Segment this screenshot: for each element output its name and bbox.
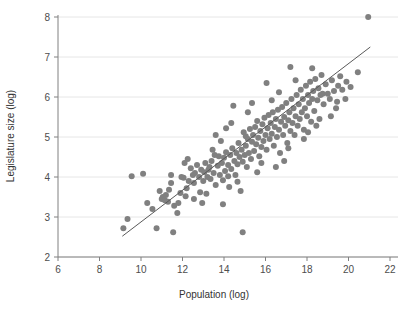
data-point: [234, 179, 240, 185]
data-point: [238, 188, 244, 194]
x-axis: 6810121416182022: [55, 257, 398, 275]
data-point: [269, 131, 275, 137]
data-point: [258, 144, 264, 150]
data-point: [154, 225, 160, 231]
data-point: [120, 225, 126, 231]
data-point: [339, 87, 345, 93]
data-point: [302, 105, 308, 111]
data-point: [289, 120, 295, 126]
data-point: [226, 184, 232, 190]
data-point: [194, 162, 200, 168]
x-tick-label: 10: [135, 264, 147, 275]
data-point: [255, 135, 261, 141]
data-point: [216, 153, 222, 159]
data-point: [236, 140, 242, 146]
data-point: [282, 123, 288, 129]
y-axis-title: Legislature size (log): [5, 90, 16, 182]
data-point: [265, 125, 271, 131]
regression-line: [122, 47, 370, 236]
data-point: [228, 166, 234, 172]
x-tick-label: 12: [177, 264, 189, 275]
trend-line: [122, 47, 370, 236]
data-point: [305, 129, 311, 135]
chart-canvas: 2345678 6810121416182022 Population (log…: [0, 0, 408, 310]
data-point: [163, 192, 169, 198]
y-axis: 2345678: [44, 12, 58, 263]
data-point: [334, 99, 340, 105]
data-point: [191, 196, 197, 202]
data-point: [292, 132, 298, 138]
data-point: [254, 118, 260, 124]
data-point: [348, 84, 354, 90]
data-point: [343, 79, 349, 85]
data-point: [223, 125, 229, 131]
data-point: [240, 229, 246, 235]
scatter-plot-figure: 2345678 6810121416182022 Population (log…: [0, 0, 408, 310]
data-point: [309, 96, 315, 102]
data-point: [308, 119, 314, 125]
data-point: [312, 76, 318, 82]
data-point: [331, 88, 337, 94]
data-point: [166, 187, 172, 193]
data-point: [333, 105, 339, 111]
y-tick-label: 6: [44, 92, 50, 103]
data-point: [270, 109, 276, 115]
data-point: [140, 171, 146, 177]
data-point: [252, 124, 258, 130]
x-tick-label: 22: [384, 264, 396, 275]
data-point: [269, 97, 275, 103]
data-point: [277, 150, 283, 156]
data-point: [314, 97, 320, 103]
data-point: [168, 172, 174, 178]
data-point: [247, 126, 253, 132]
data-point: [258, 160, 264, 166]
data-point: [298, 87, 304, 93]
data-point: [253, 141, 259, 147]
data-point: [213, 132, 219, 138]
data-point: [280, 132, 286, 138]
data-point: [211, 170, 217, 176]
data-point: [256, 153, 262, 159]
data-point: [203, 191, 209, 197]
data-point: [181, 175, 187, 181]
data-point: [225, 173, 231, 179]
data-point: [186, 178, 192, 184]
data-point: [264, 147, 270, 153]
data-point: [209, 158, 215, 164]
data-point: [213, 182, 219, 188]
data-point: [287, 64, 293, 70]
data-point: [276, 127, 282, 133]
x-tick-label: 16: [260, 264, 272, 275]
data-point: [170, 229, 176, 235]
data-point: [129, 173, 135, 179]
data-point: [218, 138, 224, 144]
x-tick-label: 6: [55, 264, 61, 275]
data-point: [274, 134, 280, 140]
data-point: [254, 169, 260, 175]
data-point: [199, 200, 205, 206]
data-point: [260, 138, 266, 144]
y-tick-label: 2: [44, 252, 50, 263]
data-point: [243, 133, 249, 139]
y-tick-label: 3: [44, 212, 50, 223]
data-point: [304, 113, 310, 119]
data-point: [293, 77, 299, 83]
data-point: [325, 91, 331, 97]
data-point: [295, 123, 301, 129]
data-point: [220, 201, 226, 207]
x-axis-title: Population (log): [179, 289, 249, 300]
data-point: [217, 172, 223, 178]
x-tick-label: 18: [301, 264, 313, 275]
data-point: [249, 100, 255, 106]
data-point: [245, 109, 251, 115]
x-tick-label: 20: [343, 264, 355, 275]
data-point: [125, 216, 131, 222]
data-point: [281, 158, 287, 164]
data-point: [188, 165, 194, 171]
data-point: [316, 116, 322, 122]
data-point: [284, 140, 290, 146]
data-point: [283, 100, 289, 106]
data-point: [285, 145, 291, 151]
data-point: [311, 108, 317, 114]
data-point: [313, 123, 319, 129]
